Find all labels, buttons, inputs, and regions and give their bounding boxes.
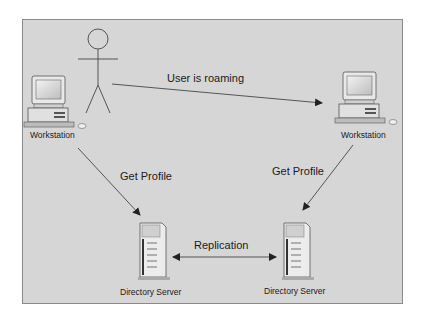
edge-get-profile-right-label: Get Profile bbox=[272, 165, 324, 177]
diagram-canvas bbox=[0, 0, 426, 321]
edge-get-profile-left-label: Get Profile bbox=[120, 170, 172, 182]
workstation-right-icon bbox=[335, 72, 397, 125]
directory-server-left-label: Directory Server bbox=[120, 287, 181, 297]
edge-get-profile-right-arrow bbox=[303, 145, 353, 210]
edge-replication-label: Replication bbox=[194, 239, 248, 251]
workstation-left-icon bbox=[24, 76, 86, 129]
edge-roaming-arrow bbox=[112, 84, 322, 103]
directory-server-left-icon bbox=[138, 223, 170, 280]
workstation-right-label: Workstation bbox=[341, 130, 386, 140]
edge-roaming-label: User is roaming bbox=[167, 72, 244, 84]
directory-server-right-icon bbox=[282, 223, 314, 280]
workstation-left-label: Workstation bbox=[30, 130, 75, 140]
user-stick-figure-icon bbox=[78, 29, 118, 113]
directory-server-right-label: Directory Server bbox=[264, 286, 325, 296]
